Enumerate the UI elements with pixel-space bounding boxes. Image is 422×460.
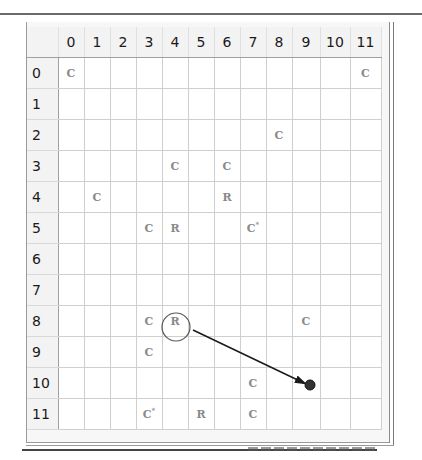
grid-cell[interactable]: [84, 399, 110, 430]
grid-cell[interactable]: [84, 213, 110, 244]
grid-cell[interactable]: [214, 337, 240, 368]
grid-cell[interactable]: [188, 120, 214, 151]
grid-cell[interactable]: [110, 89, 136, 120]
grid-cell[interactable]: [110, 275, 136, 306]
grid-cell[interactable]: [350, 89, 381, 120]
grid-cell[interactable]: [320, 244, 350, 275]
grid-cell[interactable]: [240, 275, 266, 306]
grid-cell[interactable]: [240, 337, 266, 368]
grid-cell[interactable]: [110, 337, 136, 368]
piece-c[interactable]: C: [136, 337, 162, 368]
grid-cell[interactable]: [292, 213, 320, 244]
grid-cell[interactable]: [214, 399, 240, 430]
grid-cell[interactable]: [350, 399, 381, 430]
grid-cell[interactable]: [214, 89, 240, 120]
piece-r[interactable]: R: [162, 213, 188, 244]
grid-cell[interactable]: [292, 399, 320, 430]
grid-cell[interactable]: [266, 58, 292, 89]
grid-cell[interactable]: [58, 244, 84, 275]
piece-c[interactable]: C*: [240, 213, 266, 244]
grid-cell[interactable]: [162, 275, 188, 306]
grid-cell[interactable]: [320, 89, 350, 120]
grid-cell[interactable]: [320, 368, 350, 399]
grid-cell[interactable]: [84, 151, 110, 182]
grid-cell[interactable]: [110, 58, 136, 89]
grid-cell[interactable]: [266, 399, 292, 430]
piece-r[interactable]: R: [162, 306, 188, 337]
grid-cell[interactable]: [110, 151, 136, 182]
piece-c[interactable]: C: [266, 120, 292, 151]
grid-cell[interactable]: [188, 244, 214, 275]
grid-cell[interactable]: [58, 120, 84, 151]
grid-cell[interactable]: [320, 120, 350, 151]
grid-cell[interactable]: [350, 244, 381, 275]
grid-cell[interactable]: [162, 337, 188, 368]
grid-cell[interactable]: [350, 120, 381, 151]
grid-cell[interactable]: [240, 120, 266, 151]
grid-cell[interactable]: [320, 306, 350, 337]
grid-cell[interactable]: [188, 89, 214, 120]
grid-cell[interactable]: [110, 182, 136, 213]
grid-cell[interactable]: [292, 151, 320, 182]
grid-cell[interactable]: [188, 337, 214, 368]
grid-cell[interactable]: [136, 368, 162, 399]
grid-cell[interactable]: [162, 120, 188, 151]
grid-cell[interactable]: [162, 399, 188, 430]
piece-c[interactable]: C: [214, 151, 240, 182]
grid-cell[interactable]: [320, 399, 350, 430]
grid-cell[interactable]: [240, 58, 266, 89]
grid-cell[interactable]: [292, 368, 320, 399]
piece-c[interactable]: C: [240, 399, 266, 430]
piece-c[interactable]: C: [136, 306, 162, 337]
piece-c[interactable]: C: [350, 58, 381, 89]
grid-cell[interactable]: [58, 275, 84, 306]
piece-c[interactable]: C: [84, 182, 110, 213]
grid-cell[interactable]: [58, 213, 84, 244]
grid-cell[interactable]: [188, 151, 214, 182]
grid-cell[interactable]: [84, 244, 110, 275]
grid-cell[interactable]: [240, 244, 266, 275]
grid-cell[interactable]: [214, 244, 240, 275]
grid-cell[interactable]: [214, 58, 240, 89]
grid-cell[interactable]: [162, 244, 188, 275]
grid-cell[interactable]: [84, 275, 110, 306]
grid-cell[interactable]: [350, 368, 381, 399]
grid-cell[interactable]: [350, 213, 381, 244]
grid-cell[interactable]: [188, 368, 214, 399]
grid-cell[interactable]: [292, 120, 320, 151]
grid-cell[interactable]: [84, 58, 110, 89]
grid-cell[interactable]: [110, 399, 136, 430]
grid-cell[interactable]: [266, 213, 292, 244]
grid-cell[interactable]: [110, 213, 136, 244]
grid-cell[interactable]: [188, 275, 214, 306]
grid-cell[interactable]: [320, 182, 350, 213]
grid-cell[interactable]: [292, 244, 320, 275]
grid-cell[interactable]: [214, 306, 240, 337]
grid-cell[interactable]: [58, 151, 84, 182]
grid-cell[interactable]: [58, 306, 84, 337]
grid-cell[interactable]: [84, 368, 110, 399]
piece-r[interactable]: R: [214, 182, 240, 213]
grid-cell[interactable]: [350, 306, 381, 337]
grid-cell[interactable]: [350, 182, 381, 213]
grid-cell[interactable]: [240, 151, 266, 182]
grid-cell[interactable]: [240, 89, 266, 120]
grid-cell[interactable]: [136, 244, 162, 275]
grid-cell[interactable]: [58, 89, 84, 120]
grid-cell[interactable]: [214, 120, 240, 151]
grid-cell[interactable]: [58, 368, 84, 399]
grid-cell[interactable]: [320, 58, 350, 89]
grid-cell[interactable]: [266, 306, 292, 337]
grid-cell[interactable]: [214, 275, 240, 306]
grid-cell[interactable]: [162, 182, 188, 213]
grid-cell[interactable]: [320, 213, 350, 244]
grid-cell[interactable]: [292, 337, 320, 368]
piece-r[interactable]: R: [188, 399, 214, 430]
grid-cell[interactable]: [266, 368, 292, 399]
grid-cell[interactable]: [266, 89, 292, 120]
grid-cell[interactable]: [266, 337, 292, 368]
piece-c[interactable]: C: [136, 213, 162, 244]
grid-cell[interactable]: [188, 306, 214, 337]
grid-cell[interactable]: [136, 120, 162, 151]
grid-cell[interactable]: [110, 306, 136, 337]
